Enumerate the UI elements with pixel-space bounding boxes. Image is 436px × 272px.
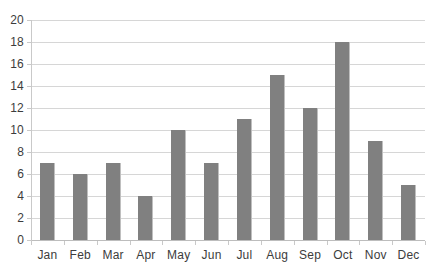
x-tick-mark-2 (97, 241, 98, 245)
bar-mar[interactable] (106, 163, 121, 240)
bar-feb[interactable] (73, 174, 88, 240)
y-tick-label-16: 16 (0, 58, 24, 70)
x-tick-mark-12 (425, 241, 426, 245)
bar-jun[interactable] (204, 163, 219, 240)
plot-area (31, 20, 425, 240)
x-tick-mark-3 (130, 241, 131, 245)
y-tick-label-14: 14 (0, 80, 24, 92)
x-tick-mark-5 (195, 241, 196, 245)
y-tick-label-0: 0 (0, 234, 24, 246)
x-tick-mark-9 (327, 241, 328, 245)
y-tick-label-2: 2 (0, 212, 24, 224)
y-tick-label-20: 20 (0, 14, 24, 26)
bar-may[interactable] (171, 130, 186, 240)
y-tick-label-18: 18 (0, 36, 24, 48)
bar-oct[interactable] (335, 42, 350, 240)
bar-nov[interactable] (368, 141, 383, 240)
x-tick-label-dec: Dec (389, 248, 429, 262)
bar-jan[interactable] (40, 163, 55, 240)
x-tick-mark-4 (162, 241, 163, 245)
x-tick-mark-7 (261, 241, 262, 245)
bar-jul[interactable] (237, 119, 252, 240)
x-tick-mark-10 (359, 241, 360, 245)
x-tick-mark-0 (31, 241, 32, 245)
x-tick-mark-6 (228, 241, 229, 245)
x-tick-mark-1 (64, 241, 65, 245)
y-tick-label-4: 4 (0, 190, 24, 202)
bar-apr[interactable] (138, 196, 153, 240)
bar-aug[interactable] (270, 75, 285, 240)
x-tick-mark-11 (392, 241, 393, 245)
bar-sep[interactable] (303, 108, 318, 240)
x-tick-mark-8 (294, 241, 295, 245)
y-tick-label-8: 8 (0, 146, 24, 158)
y-tick-label-12: 12 (0, 102, 24, 114)
bar-chart: 02468101214161820 JanFebMarAprMayJunJulA… (0, 0, 436, 272)
bar-dec[interactable] (401, 185, 416, 240)
y-tick-label-10: 10 (0, 124, 24, 136)
y-tick-label-6: 6 (0, 168, 24, 180)
